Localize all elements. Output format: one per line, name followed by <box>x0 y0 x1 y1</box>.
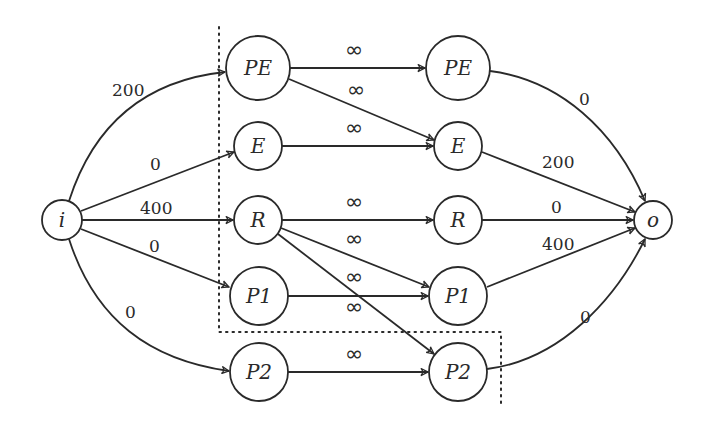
node-label-i: i <box>59 208 65 232</box>
edge-label-P1-o: 400 <box>542 234 574 254</box>
edge-label-P2-P2: ∞ <box>345 341 363 366</box>
edge-label-E-o: 200 <box>542 152 574 172</box>
edge-PE-o <box>490 71 645 201</box>
node-label-P1-right: P1 <box>444 284 471 308</box>
edge-i-P2 <box>69 239 229 371</box>
node-label-P2-right: P2 <box>444 360 471 384</box>
edge-label-R-P2: ∞ <box>345 264 363 289</box>
edge-label-E-E: ∞ <box>345 115 363 140</box>
edge-label-PE-o: 0 <box>579 89 590 109</box>
edge-label-i-P2: 0 <box>125 302 136 322</box>
node-label-o: o <box>647 208 659 232</box>
edge-label-PE-PE: ∞ <box>345 37 363 62</box>
edge-label-P1-P1: ∞ <box>345 294 363 319</box>
node-label-P2-left: P2 <box>245 360 272 384</box>
edge-label-P2-o: 0 <box>580 307 591 327</box>
edge-label-i-R: 400 <box>140 198 172 218</box>
node-label-R-left: R <box>249 208 265 232</box>
edges <box>69 68 645 372</box>
node-label-PE-left: PE <box>243 56 272 80</box>
flow-network-diagram: 200 0 400 0 0 ∞ ∞ ∞ ∞ ∞ ∞ ∞ ∞ 0 200 0 40… <box>0 0 707 427</box>
node-label-E-right: E <box>450 134 466 158</box>
node-label-R-right: R <box>449 208 465 232</box>
node-label-PE-right: PE <box>443 56 472 80</box>
edge-label-i-E: 0 <box>150 154 161 174</box>
edge-i-PE <box>69 72 225 201</box>
edge-label-i-PE: 200 <box>112 80 144 100</box>
edge-label-R-P1: ∞ <box>345 226 363 251</box>
edge-P2-o <box>487 239 645 369</box>
edge-label-R-o: 0 <box>551 197 562 217</box>
edge-labels: 200 0 400 0 0 ∞ ∞ ∞ ∞ ∞ ∞ ∞ ∞ 0 200 0 40… <box>112 37 591 366</box>
edge-label-R-R: ∞ <box>345 189 363 214</box>
edge-label-i-P1: 0 <box>149 236 160 256</box>
node-label-P1-left: P1 <box>245 284 272 308</box>
edge-label-PE-E: ∞ <box>347 77 365 102</box>
node-label-E-left: E <box>250 134 266 158</box>
